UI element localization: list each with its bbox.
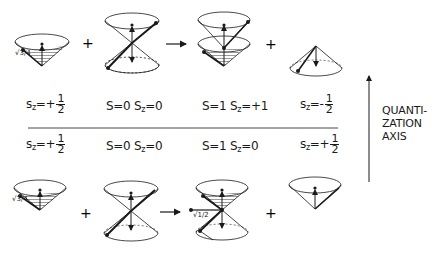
bottom-label-3: S=1 Sz=0 [202, 139, 258, 154]
spin-diagram-canvas: + + [0, 0, 442, 254]
sqrt-3-4-annotation: √3/4 [12, 196, 28, 203]
sqrt-3-4-annotation: √3/4 [15, 50, 31, 57]
bottom-label-1: sz=+12 [26, 134, 65, 155]
top-cone-spin-down [290, 46, 342, 76]
plus-sign: + [265, 36, 277, 52]
plus-sign: + [80, 205, 92, 221]
plus-sign: + [82, 35, 94, 51]
top-label-2: S=0 Sz=0 [106, 99, 162, 114]
bottom-cone-spin-up-right [289, 177, 341, 209]
bottom-label-4: sz=+12 [300, 134, 339, 155]
sqrt-1-2-annotation: √1/2 [193, 212, 209, 219]
top-label-3: S=1 Sz=+1 [202, 99, 268, 114]
bottom-double-cone-singlet [104, 181, 158, 241]
plus-sign: + [265, 205, 277, 221]
top-label-4: sz=-12 [300, 94, 333, 115]
top-cone-triplet-plus [198, 12, 250, 66]
quantization-axis-label: QUANTI- ZATION AXIS [382, 104, 427, 143]
bottom-cone-triplet-zero [189, 180, 248, 240]
top-label-1: sz=+12 [26, 94, 65, 115]
bottom-label-2: S=0 Sz=0 [106, 139, 162, 154]
top-double-cone-singlet [105, 13, 159, 73]
